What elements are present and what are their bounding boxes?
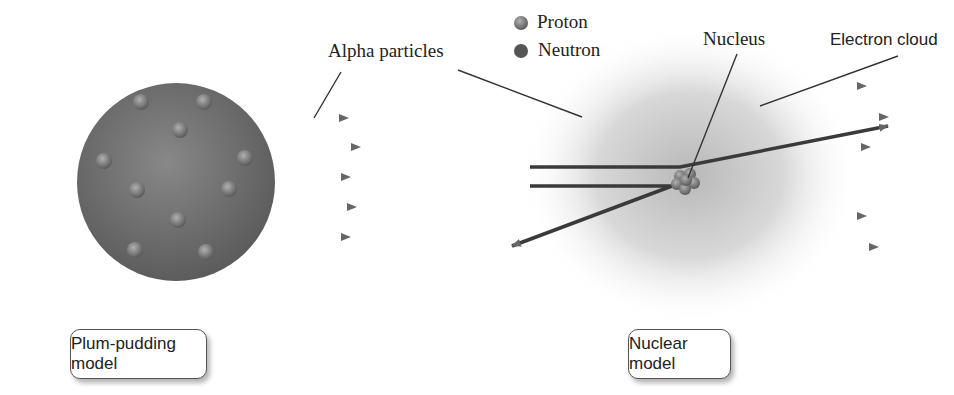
neutron-legend-icon: [514, 44, 528, 58]
plum-pudding-sphere: [77, 83, 275, 281]
neutron-label: Neutron: [538, 39, 600, 61]
proton-label: Proton: [537, 11, 588, 33]
proton-legend-icon: [514, 16, 528, 30]
alpha-particles-label: Alpha particles: [328, 40, 444, 62]
nuclear-model-caption: Nuclear model: [628, 329, 731, 379]
nucleus-label: Nucleus: [703, 28, 765, 50]
electron-cloud-label: Electron cloud: [830, 30, 938, 50]
plum-pudding-caption: Plum-pudding model: [70, 329, 207, 379]
